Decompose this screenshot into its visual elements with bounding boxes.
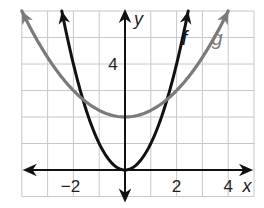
- x-axis-label: x: [241, 176, 252, 196]
- y-axis-label: y: [132, 9, 144, 29]
- x-tick-label: 2: [172, 177, 181, 196]
- curve-label-g: g: [211, 27, 222, 49]
- y-tick-label: 4: [108, 55, 117, 74]
- parabola-chart: −2244xyfg: [0, 0, 264, 208]
- x-tick-label: 4: [223, 177, 232, 196]
- curve-label-f: f: [182, 27, 190, 49]
- x-tick-label: −2: [61, 177, 80, 196]
